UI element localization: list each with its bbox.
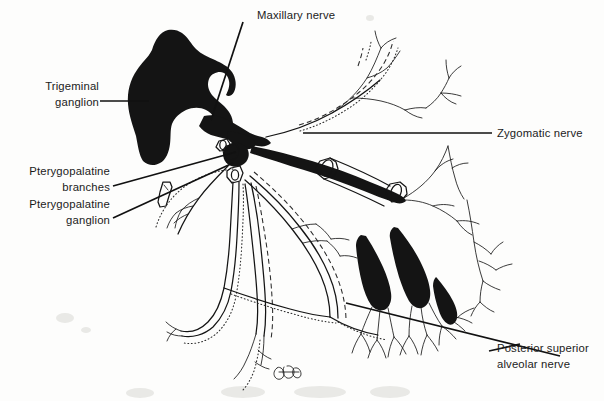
label-posterior-superior-alveolar-line1: Posterior superior xyxy=(497,342,589,354)
label-pterygopalatine-branches-line1: Pterygopalatine xyxy=(29,165,110,177)
label-trigeminal-ganglion-line2: ganglion xyxy=(55,96,99,108)
leader-pterygopalatine-branches xyxy=(113,152,236,186)
label-trigeminal-ganglion-line1: Trigeminal xyxy=(45,80,99,92)
zygomatic-nerve xyxy=(266,31,461,137)
pterygopalatine-branches xyxy=(156,166,387,391)
label-posterior-superior-alveolar-line2: alveolar nerve xyxy=(497,358,570,370)
label-pterygopalatine-ganglion-line1: Pterygopalatine xyxy=(29,198,110,210)
diagram-canvas: Maxillary nerve Trigeminal ganglion Pter… xyxy=(0,0,604,401)
posterior-superior-alveolar-nerve xyxy=(346,146,560,358)
label-pterygopalatine-ganglion: Pterygopalatine ganglion xyxy=(29,198,110,226)
infraorbital-nerve xyxy=(250,146,479,235)
artist-signature xyxy=(274,366,301,379)
label-pterygopalatine-branches: Pterygopalatine branches xyxy=(29,165,110,193)
anatomical-figure: Maxillary nerve Trigeminal ganglion Pter… xyxy=(0,0,604,401)
label-maxillary-nerve: Maxillary nerve xyxy=(257,9,335,21)
leader-pterygopalatine-ganglion xyxy=(113,163,233,218)
label-pterygopalatine-ganglion-line2: ganglion xyxy=(66,214,110,226)
label-maxillary-nerve-text: Maxillary nerve xyxy=(257,9,335,21)
label-zygomatic-nerve: Zygomatic nerve xyxy=(497,127,583,139)
label-posterior-superior-alveolar-nerve: Posterior superior alveolar nerve xyxy=(497,342,589,370)
label-pterygopalatine-branches-line2: branches xyxy=(62,181,110,193)
label-trigeminal-ganglion: Trigeminal ganglion xyxy=(45,80,99,108)
pterygopalatine-ganglion xyxy=(216,139,249,183)
label-zygomatic-nerve-text: Zygomatic nerve xyxy=(497,127,583,139)
